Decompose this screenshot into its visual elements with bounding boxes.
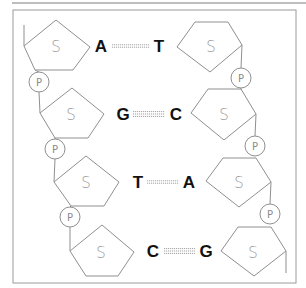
left-link [54,159,55,182]
phosphate-label: P [267,209,273,220]
left-phosphate-1: P [29,72,49,92]
base-right: C [170,105,182,124]
dna-diagram: S S S S P P P [0,0,306,288]
base-left: T [133,173,144,192]
sugar-label: S [206,38,216,56]
left-sugar-3: S [54,156,119,206]
sugar-label: S [96,244,106,262]
sugar-label: S [51,38,61,56]
left-phosphate-3: P [60,207,80,227]
right-strand: S S S S P P P [177,22,286,276]
base-pair-2: G C [116,105,182,124]
right-phosphate-2: P [245,136,265,156]
right-sugar-2: S [191,89,256,140]
sugar-label: S [81,174,91,192]
sugar-label: S [219,106,229,124]
left-link [39,92,40,113]
left-phosphate-2: P [45,139,65,159]
phosphate-label: P [52,144,58,155]
base-pair-4: C G [147,242,213,261]
left-sugar-2: S [40,88,104,138]
right-phosphate-1: P [231,68,251,88]
hydrogen-bonds [133,112,165,117]
sugar-label: S [66,106,76,124]
sugar-label: S [248,244,258,262]
hydrogen-bonds [112,45,150,47]
base-left: A [95,37,107,56]
right-phosphate-3: P [260,204,280,224]
sugar-label: S [234,174,244,192]
base-right: G [199,242,212,261]
right-link [241,45,242,68]
hydrogen-bonds [164,249,195,254]
right-link [270,182,271,204]
base-pair-3: T A [133,173,195,192]
left-sugar-4: S [70,225,134,276]
base-right: T [154,37,165,56]
right-sugar-3: S [206,158,271,207]
right-link [255,114,256,136]
base-left: G [116,105,129,124]
phosphate-label: P [238,73,244,84]
hydrogen-bonds [147,181,179,183]
base-left: C [147,242,159,261]
phosphate-label: P [67,212,73,223]
phosphate-label: P [252,141,258,152]
base-right: A [183,173,195,192]
left-strand: S S S S P P P [24,20,134,276]
right-sugar-4: S [221,227,286,276]
base-pair-1: A T [95,37,165,56]
right-sugar-1: S [177,22,242,72]
left-sugar-1: S [24,20,90,70]
phosphate-label: P [36,77,42,88]
